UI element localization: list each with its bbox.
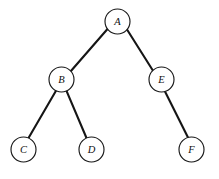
tree-node-label-f: F bbox=[187, 144, 195, 155]
tree-node-f[interactable]: F bbox=[179, 137, 204, 162]
tree-diagram-figure: ABECDF bbox=[0, 0, 219, 179]
tree-edge-e-f bbox=[165, 92, 188, 138]
tree-node-label-c: C bbox=[20, 144, 28, 155]
tree-node-e[interactable]: E bbox=[149, 67, 174, 92]
tree-edge-a-b bbox=[71, 29, 108, 72]
tree-node-label-d: D bbox=[87, 144, 96, 155]
tree-node-d[interactable]: D bbox=[79, 137, 104, 162]
node-layer: ABECDF bbox=[11, 9, 204, 162]
tree-node-b[interactable]: B bbox=[49, 67, 74, 92]
tree-edge-b-d bbox=[67, 91, 87, 138]
tree-edge-a-e bbox=[127, 30, 154, 72]
tree-node-label-b: B bbox=[58, 74, 65, 85]
tree-node-label-a: A bbox=[113, 16, 121, 27]
tree-diagram-canvas: ABECDF bbox=[0, 0, 219, 179]
tree-node-c[interactable]: C bbox=[11, 137, 36, 162]
tree-node-a[interactable]: A bbox=[105, 9, 130, 34]
tree-node-label-e: E bbox=[157, 74, 165, 85]
tree-edge-b-c bbox=[29, 91, 57, 138]
